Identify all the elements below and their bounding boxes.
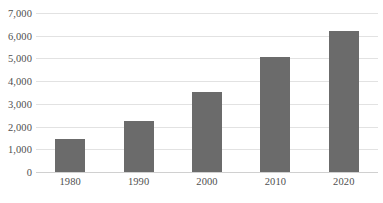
axis-baseline	[36, 172, 378, 173]
gridline	[36, 36, 378, 37]
y-axis-tick-label: 1,000	[8, 144, 32, 155]
y-axis-tick-label: 3,000	[8, 98, 32, 109]
bar	[55, 139, 85, 172]
gridline	[36, 81, 378, 82]
bar	[329, 31, 359, 172]
x-axis-tick-label: 1990	[128, 176, 149, 187]
x-axis: 19801990200020102020	[36, 176, 378, 196]
y-axis-tick-label: 4,000	[8, 76, 32, 87]
x-axis-tick-label: 1980	[59, 176, 80, 187]
y-axis-tick-label: 6,000	[8, 30, 32, 41]
y-axis: 01,0002,0003,0004,0005,0006,0007,000	[0, 13, 32, 172]
plot-area	[36, 13, 378, 172]
y-axis-tick-label: 7,000	[8, 8, 32, 19]
bar	[124, 121, 154, 172]
gridline	[36, 13, 378, 14]
bar	[192, 92, 222, 172]
bar	[260, 57, 290, 172]
x-axis-tick-label: 2010	[265, 176, 286, 187]
gridline	[36, 58, 378, 59]
x-axis-tick-label: 2000	[196, 176, 217, 187]
y-axis-tick-label: 0	[27, 167, 32, 178]
x-axis-tick-label: 2020	[333, 176, 354, 187]
bar-chart: 01,0002,0003,0004,0005,0006,0007,000 198…	[0, 0, 383, 203]
y-axis-tick-label: 2,000	[8, 121, 32, 132]
y-axis-tick-label: 5,000	[8, 53, 32, 64]
